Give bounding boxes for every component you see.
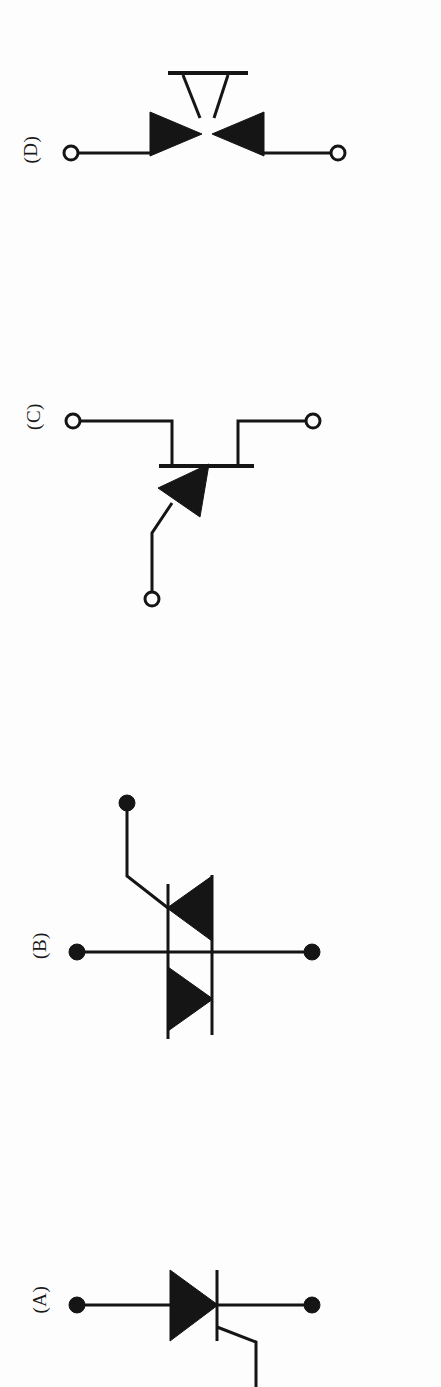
scr-terminal-cathode[interactable] — [306, 414, 320, 428]
diac-symbol — [0, 0, 441, 340]
diac-right-stem — [214, 75, 228, 118]
triac-terminal-mt2[interactable] — [304, 944, 320, 960]
scr-symbol — [0, 1180, 441, 1387]
diac-left-triangle — [150, 112, 202, 156]
scr-terminal-gate[interactable] — [145, 592, 159, 606]
triac-lower-triangle — [168, 967, 213, 1031]
diac-right-triangle — [212, 112, 264, 156]
scr-anode-triangle — [170, 1270, 218, 1341]
scr-terminal-anode-a[interactable] — [69, 1297, 85, 1313]
scr-triangle — [158, 464, 209, 517]
scr-anode-lead — [80, 421, 172, 464]
scr-gate-symbol — [0, 340, 441, 700]
diac-left-stem — [183, 75, 200, 118]
panel-diac: (D) — [0, 0, 441, 340]
panel-scr-gate: (C) — [0, 340, 441, 700]
triac-terminal-mt1[interactable] — [69, 944, 85, 960]
scr-cathode-lead — [238, 421, 306, 464]
scr-gate-lead — [152, 503, 172, 592]
panel-triac: (B) — [0, 700, 441, 1180]
scr-gate-lead-a — [217, 1327, 256, 1387]
diac-terminal-left[interactable] — [64, 146, 78, 160]
triac-terminal-gate[interactable] — [119, 795, 135, 811]
figure-sheet: (D) (C) — [0, 0, 441, 1387]
scr-terminal-anode[interactable] — [66, 414, 80, 428]
panel-scr: (A) — [0, 1180, 441, 1387]
triac-symbol — [0, 700, 441, 1180]
triac-upper-triangle — [167, 876, 212, 941]
diac-terminal-right[interactable] — [331, 146, 345, 160]
scr-terminal-cathode-a[interactable] — [304, 1297, 320, 1313]
triac-gate-lead — [127, 810, 168, 908]
